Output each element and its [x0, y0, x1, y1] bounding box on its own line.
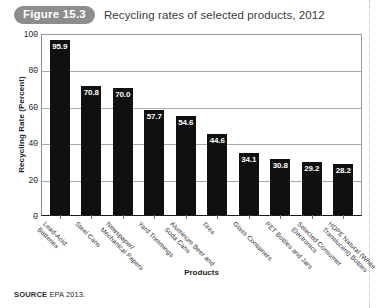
- bar: 70.8: [81, 86, 101, 215]
- bar-series: 95.970.870.057.754.644.634.130.829.228.2: [42, 35, 361, 215]
- bar-slot: 57.7: [139, 35, 171, 215]
- bar-value-label: 70.0: [115, 90, 130, 99]
- y-tick-mark: [33, 107, 37, 108]
- source-text: EPA 2013.: [49, 290, 85, 299]
- bar-slot: 54.6: [170, 35, 202, 215]
- bar: 57.7: [144, 110, 164, 215]
- bar-value-label: 70.8: [84, 88, 99, 97]
- source-label: SOURCE: [14, 290, 47, 299]
- bar: 95.9: [50, 40, 70, 215]
- bar: 70.0: [113, 88, 133, 215]
- bar-value-label: 57.7: [147, 112, 162, 121]
- x-axis-category-label: Lead-AcidBatteries: [35, 220, 68, 253]
- x-axis-category-label-line: Tires: [201, 220, 217, 236]
- y-tick-mark: [33, 70, 37, 71]
- bar-value-label: 44.6: [210, 136, 225, 145]
- bar-slot: 28.2: [328, 35, 360, 215]
- source-note: SOURCE EPA 2013.: [14, 290, 85, 299]
- bar-slot: 29.2: [296, 35, 328, 215]
- bar-value-label: 54.6: [178, 118, 193, 127]
- bar-slot: 70.8: [76, 35, 108, 215]
- figure-header: Figure 15.3 Recycling rates of selected …: [14, 6, 325, 24]
- x-axis-category-label: Steel Cans: [73, 220, 102, 249]
- bar-value-label: 29.2: [304, 164, 319, 173]
- bar-slot: 95.9: [44, 35, 76, 215]
- bar-slot: 30.8: [265, 35, 297, 215]
- plot-area: 95.970.870.057.754.644.634.130.829.228.2: [41, 34, 362, 216]
- figure-title: Recycling rates of selected products, 20…: [104, 9, 325, 21]
- bar-value-label: 30.8: [273, 161, 288, 170]
- bar-slot: 44.6: [202, 35, 234, 215]
- y-tick-mark: [33, 216, 37, 217]
- bar-value-label: 34.1: [241, 155, 256, 164]
- y-tick-mark: [33, 34, 37, 35]
- y-tick-mark: [33, 180, 37, 181]
- bar: 54.6: [176, 116, 196, 215]
- x-axis-title: Products: [41, 268, 362, 277]
- y-tick-mark: [33, 143, 37, 144]
- bar: 44.6: [207, 134, 227, 215]
- bar: 29.2: [302, 162, 322, 215]
- y-axis-ticks: 020406080100: [0, 28, 38, 280]
- bar-slot: 70.0: [107, 35, 139, 215]
- x-axis-category-label-line: Steel Cans: [74, 220, 102, 248]
- bar: 34.1: [239, 153, 259, 215]
- x-axis-category-label: Tires: [200, 220, 216, 236]
- bar: 30.8: [270, 159, 290, 215]
- figure-number-badge: Figure 15.3: [14, 6, 95, 24]
- bar-value-label: 28.2: [336, 166, 351, 175]
- bar: 28.2: [333, 164, 353, 215]
- bar-value-label: 95.9: [52, 42, 67, 51]
- bar-chart: Recycling Rate (Percent) 020406080100 95…: [0, 28, 369, 280]
- bar-slot: 34.1: [233, 35, 265, 215]
